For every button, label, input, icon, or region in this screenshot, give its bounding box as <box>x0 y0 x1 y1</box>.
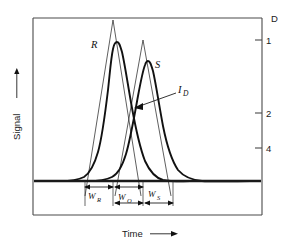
tangent-r-left <box>85 20 113 196</box>
right-axis-tick-label-2: 2 <box>266 108 271 119</box>
right-axis-tick-label-1: 1 <box>266 35 271 46</box>
width-r-label-sub: R <box>96 196 101 203</box>
x-axis-label: Time <box>122 228 143 239</box>
width-o-label-main: W <box>118 192 127 202</box>
tangent-construction-lines <box>85 20 171 196</box>
width-s-label-main: W <box>148 189 157 199</box>
valley-depth-label: I D <box>177 84 189 98</box>
peak-label-s: S <box>155 59 161 70</box>
width-label-r: W R <box>88 191 101 203</box>
valley-label-main: I <box>177 84 182 95</box>
peak-curve-s <box>88 61 258 181</box>
width-s-arrow-left <box>144 201 150 206</box>
x-axis-label-group: Time <box>122 228 178 239</box>
width-s-label-sub: S <box>157 194 161 201</box>
right-axis-ticks <box>255 40 262 148</box>
y-axis-label: Signal <box>11 114 22 140</box>
plot-frame <box>33 18 262 215</box>
signal-resolution-chart: D 1 2 4 R S I D <box>0 0 300 248</box>
peak-curve-r <box>60 42 235 181</box>
peak-label-r: R <box>90 39 98 50</box>
valley-label-sub: D <box>182 89 189 98</box>
right-axis-label: D <box>271 13 278 24</box>
right-axis-tick-label-4: 4 <box>266 143 271 154</box>
width-r-label-main: W <box>88 191 97 201</box>
width-label-s: W S <box>148 189 161 201</box>
tangent-s-left <box>115 40 143 196</box>
y-axis-label-group: Signal <box>11 68 22 140</box>
y-axis-arrow-head <box>14 68 19 74</box>
x-axis-arrow-head <box>171 231 178 237</box>
figure-container: D 1 2 4 R S I D <box>0 0 300 248</box>
width-o-label-sub: O <box>127 197 132 204</box>
width-label-o: W O <box>118 192 132 204</box>
